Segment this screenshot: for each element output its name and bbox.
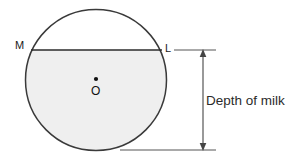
center-point-dot — [94, 77, 98, 81]
label-depth-of-milk: Depth of milk — [206, 93, 285, 108]
label-center-o: O — [91, 84, 100, 98]
label-point-m: M — [15, 39, 24, 51]
milk-depth-diagram: M L O Depth of milk — [0, 0, 308, 160]
diagram-canvas: M L O Depth of milk — [0, 0, 308, 160]
label-point-l: L — [165, 42, 171, 54]
